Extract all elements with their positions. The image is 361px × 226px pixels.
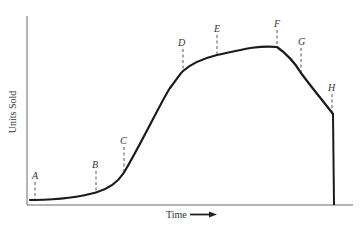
life-cycle-chart: A B C D E F G H Units Sold Time (0, 0, 361, 226)
label-f: F (273, 18, 281, 29)
sales-curve (30, 47, 333, 200)
label-c: C (120, 135, 127, 146)
label-a: A (31, 170, 39, 181)
sales-drop (333, 114, 334, 205)
label-e: E (213, 23, 220, 34)
time-arrow-icon (190, 212, 217, 218)
x-axis-label: Time (166, 209, 187, 220)
label-h: H (327, 82, 336, 93)
label-b: B (92, 159, 98, 170)
label-d: D (177, 37, 186, 48)
y-axis-label: Units Sold (7, 91, 18, 134)
label-g: G (298, 36, 305, 47)
